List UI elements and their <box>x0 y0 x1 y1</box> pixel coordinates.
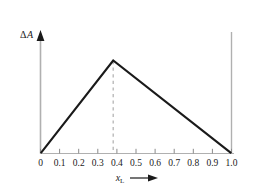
x-tick-label: 0.5 <box>130 158 142 168</box>
x-tick-label: 0.3 <box>92 158 104 168</box>
x-tick-label: 0.7 <box>168 158 180 168</box>
y-axis-label-symbol: A <box>26 29 34 40</box>
x-axis-label-subscript: L <box>120 177 124 185</box>
x-tick-label: 0.2 <box>73 158 85 168</box>
x-tick-label: 0.8 <box>187 158 199 168</box>
x-tick-label: 0.1 <box>54 158 66 168</box>
svg-text:ΔA: ΔA <box>20 29 34 40</box>
x-tick-label: 0.4 <box>111 158 123 168</box>
chart-figure: 0 0.1 0.2 0.3 0.4 0.5 0.6 0.7 0.8 0.9 1.… <box>0 0 262 188</box>
x-tick-label: 0.9 <box>206 158 218 168</box>
x-tick-label: 1.0 <box>226 158 238 168</box>
y-axis-delta-symbol: Δ <box>20 29 27 40</box>
x-tick-label: 0.6 <box>149 158 161 168</box>
y-axis-title: ΔA <box>20 29 34 40</box>
triangular-plot-svg: 0 0.1 0.2 0.3 0.4 0.5 0.6 0.7 0.8 0.9 1.… <box>0 0 262 188</box>
x-tick-label: 0 <box>38 158 43 168</box>
